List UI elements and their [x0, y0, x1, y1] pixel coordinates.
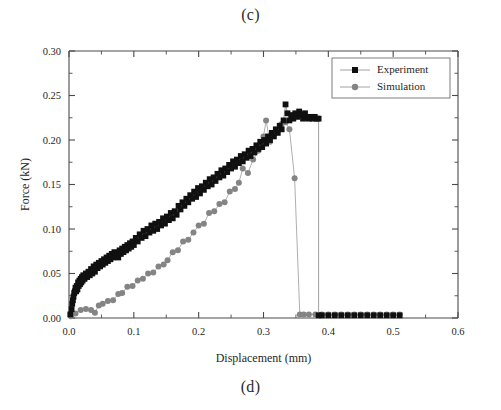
x-tick-label: 0.0: [62, 326, 75, 337]
simulation-point: [201, 221, 207, 227]
simulation-point: [211, 208, 217, 214]
figure-caption-top: (c): [0, 6, 501, 24]
experiment-point: [345, 312, 351, 318]
legend-marker-experiment: [352, 67, 358, 73]
experiment-point: [69, 306, 75, 312]
simulation-point: [216, 201, 222, 207]
force-displacement-chart: 0.00.10.20.30.40.50.60.000.050.100.150.2…: [0, 30, 501, 375]
x-tick-label: 0.1: [127, 326, 140, 337]
simulation-point: [110, 297, 116, 303]
simulation-point: [170, 249, 176, 255]
experiment-point: [325, 312, 331, 318]
experiment-line: [70, 104, 399, 315]
y-tick-label: 0.00: [43, 313, 61, 324]
simulation-point: [306, 311, 312, 317]
simulation-point: [292, 175, 298, 181]
simulation-point: [78, 307, 84, 313]
x-tick-label: 0.2: [192, 326, 205, 337]
simulation-point: [301, 311, 307, 317]
simulation-point: [119, 290, 125, 296]
figure-root: (c) 0.00.10.20.30.40.50.60.000.050.100.1…: [0, 0, 501, 410]
x-axis-title: Displacement (mm): [216, 351, 312, 365]
x-tick-label: 0.3: [257, 326, 270, 337]
experiment-point: [371, 312, 377, 318]
experiment-point: [319, 312, 325, 318]
y-axis-title: Force (kN): [18, 158, 32, 211]
simulation-point: [92, 310, 98, 316]
experiment-point: [384, 312, 390, 318]
simulation-point: [240, 165, 246, 171]
y-tick-label: 0.25: [43, 90, 61, 101]
simulation-point: [180, 238, 186, 244]
simulation-point: [227, 189, 233, 195]
experiment-point: [351, 312, 357, 318]
x-tick-label: 0.5: [387, 326, 400, 337]
experiment-point: [397, 312, 403, 318]
experiment-point: [332, 312, 338, 318]
y-tick-label: 0.15: [43, 179, 61, 190]
simulation-point: [236, 180, 242, 186]
simulation-point: [206, 210, 212, 216]
simulation-point: [150, 270, 156, 276]
simulation-point: [185, 237, 191, 243]
simulation-point: [155, 263, 161, 269]
figure-caption-bottom: (d): [0, 378, 501, 396]
simulation-line: [71, 120, 400, 316]
y-tick-label: 0.20: [43, 135, 61, 146]
simulation-point: [165, 257, 171, 263]
experiment-point: [358, 312, 364, 318]
simulation-point: [130, 283, 136, 289]
experiment-point: [377, 312, 383, 318]
simulation-point: [140, 276, 146, 282]
y-tick-label: 0.30: [43, 46, 61, 57]
simulation-point: [145, 271, 151, 277]
experiment-point: [338, 312, 344, 318]
experiment-point: [364, 312, 370, 318]
y-tick-label: 0.05: [43, 268, 61, 279]
simulation-point: [245, 170, 251, 176]
experiment-point: [174, 212, 180, 218]
experiment-point: [316, 116, 322, 122]
simulation-point: [263, 117, 269, 123]
simulation-point: [100, 301, 106, 307]
legend-marker-simulation: [352, 84, 358, 90]
experiment-point: [283, 102, 289, 108]
x-tick-label: 0.4: [322, 326, 336, 337]
simulation-point: [83, 306, 89, 312]
simulation-point: [286, 126, 292, 132]
experiment-point: [281, 118, 287, 124]
simulation-point: [222, 199, 228, 205]
legend-label-simulation: Simulation: [377, 80, 426, 92]
experiment-point: [279, 126, 285, 132]
legend-label-experiment: Experiment: [377, 63, 428, 75]
y-tick-label: 0.10: [43, 224, 61, 235]
simulation-point: [135, 278, 141, 284]
simulation-point: [232, 186, 238, 192]
experiment-point: [67, 312, 73, 318]
plot-area: 0.00.10.20.30.40.50.60.000.050.100.150.2…: [0, 30, 501, 375]
x-tick-label: 0.6: [451, 326, 464, 337]
experiment-point: [390, 312, 396, 318]
simulation-point: [196, 222, 202, 228]
simulation-point: [124, 284, 130, 290]
simulation-point: [175, 247, 181, 253]
simulation-point: [190, 230, 196, 236]
simulation-point: [105, 298, 111, 304]
